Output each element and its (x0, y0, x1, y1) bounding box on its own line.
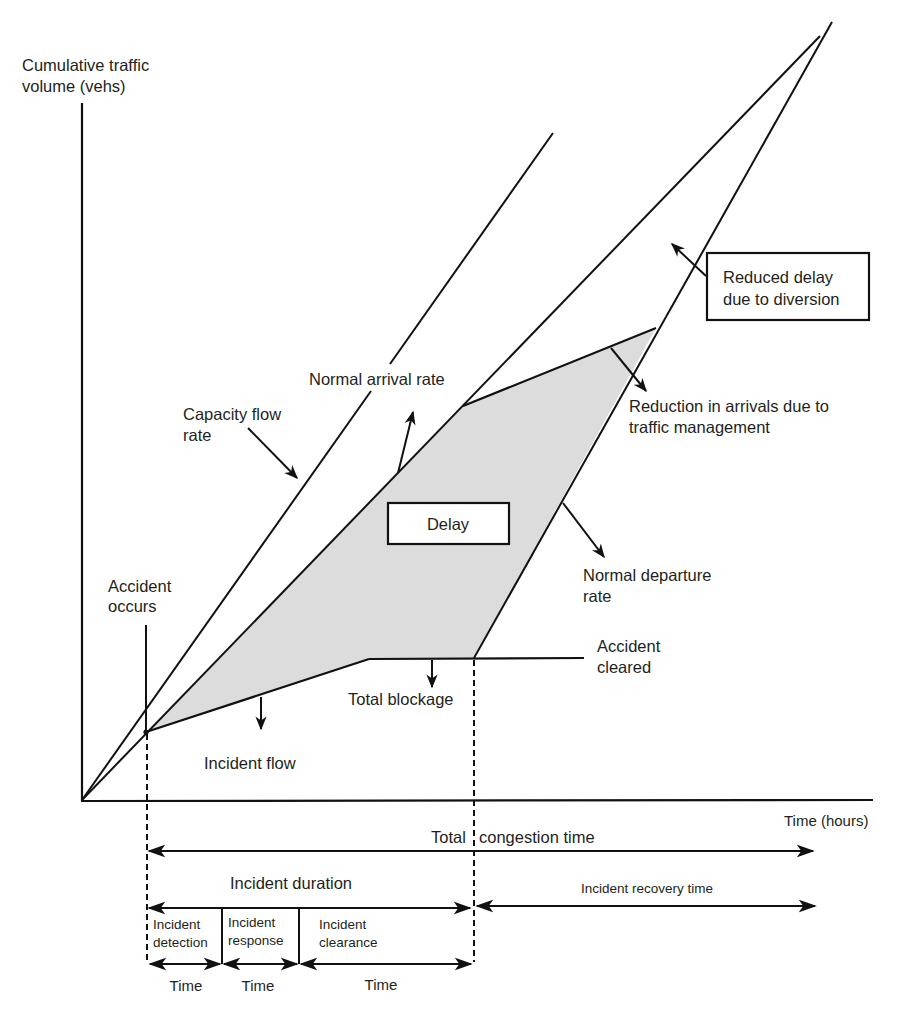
y-axis-label-line2: volume (vehs) (22, 77, 126, 95)
reduced-delay-label-line2: due to diversion (723, 290, 840, 308)
accident-cleared-line1: Accident (597, 637, 661, 655)
x-axis (81, 800, 873, 801)
departure-label-line1: Normal departure (583, 566, 711, 584)
accident-occurs-line2: occurs (108, 597, 157, 615)
reduced-delay-label-line1: Reduced delay (723, 268, 834, 286)
delay-label: Delay (427, 515, 470, 533)
reduction-label-line2: traffic management (629, 418, 770, 436)
phase-response-line2: response (228, 933, 284, 948)
total-congestion-label-part2: congestion time (479, 828, 595, 846)
capacity-label-line2: rate (183, 426, 211, 444)
phase-clearance-time: Time (365, 976, 398, 993)
total-congestion-label-part1: Total (431, 828, 466, 846)
y-axis-label-line1: Cumulative traffic (22, 56, 149, 74)
phase-clearance-line2: clearance (319, 935, 378, 950)
capacity-label-line1: Capacity flow (183, 405, 281, 423)
phase-detection-time: Time (170, 977, 203, 994)
phase-response-time: Time (242, 977, 275, 994)
reduced-delay-box (707, 253, 869, 320)
departure-pointer-arrow (563, 503, 604, 557)
incident-flow-label: Incident flow (204, 754, 296, 772)
phase-detection-line2: detection (153, 935, 208, 950)
capacity-pointer-arrow (248, 428, 297, 478)
reduction-label-line1: Reduction in arrivals due to (629, 397, 829, 415)
phase-detection-line1: Incident (153, 917, 201, 932)
total-blockage-line (369, 658, 584, 659)
phase-response-line1: Incident (228, 915, 276, 930)
incident-duration-label: Incident duration (230, 874, 352, 892)
incident-recovery-label: Incident recovery time (581, 881, 713, 896)
accident-point (143, 729, 148, 734)
normal-arrival-label: Normal arrival rate (309, 370, 445, 388)
x-axis-label: Time (hours) (784, 812, 868, 829)
total-blockage-label: Total blockage (348, 690, 454, 708)
phase-clearance-line1: Incident (319, 917, 367, 932)
diversion-pointer-arrow (672, 244, 706, 276)
departure-label-line2: rate (583, 587, 611, 605)
accident-occurs-line1: Accident (108, 577, 172, 595)
accident-cleared-line2: cleared (597, 658, 651, 676)
incident-delay-diagram: Cumulative traffic volume (vehs) Time (h… (0, 0, 913, 1030)
